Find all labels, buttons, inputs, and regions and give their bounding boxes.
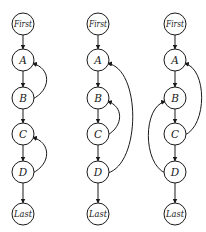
node-d: D xyxy=(164,161,186,183)
node-last: Last xyxy=(164,203,186,225)
node-label: A xyxy=(18,54,27,66)
node-first: First xyxy=(164,13,186,35)
node-label: D xyxy=(18,166,28,178)
node-label: B xyxy=(170,92,179,104)
flow-graph-3: FirstABCDLast xyxy=(148,13,201,225)
node-label: First xyxy=(88,19,107,29)
node-first: First xyxy=(12,13,34,35)
node-d: D xyxy=(87,161,109,183)
node-c: C xyxy=(164,123,186,145)
node-a: A xyxy=(164,49,186,71)
diagram-canvas: FirstABCDLastFirstABCDLastFirstABCDLast xyxy=(0,0,206,232)
node-label: D xyxy=(93,166,103,178)
node-a: A xyxy=(12,49,34,71)
node-label: C xyxy=(94,128,102,140)
back-edge-d-to-b xyxy=(148,101,165,173)
node-last: Last xyxy=(87,203,109,225)
node-label: A xyxy=(170,54,179,66)
node-label: B xyxy=(93,92,102,104)
node-a: A xyxy=(87,49,109,71)
node-label: C xyxy=(19,128,27,140)
node-c: C xyxy=(12,123,34,145)
node-label: First xyxy=(13,19,32,29)
node-label: C xyxy=(171,128,179,140)
node-label: Last xyxy=(13,209,33,219)
flow-graph-1: FirstABCDLast xyxy=(12,13,47,225)
node-label: D xyxy=(170,166,180,178)
back-edge-d-to-c xyxy=(32,137,46,173)
node-label: Last xyxy=(88,209,108,219)
node-c: C xyxy=(87,123,109,145)
node-b: B xyxy=(164,87,186,109)
flow-graph-2: FirstABCDLast xyxy=(87,13,133,225)
node-last: Last xyxy=(12,203,34,225)
node-first: First xyxy=(87,13,109,35)
back-edge-d-to-a xyxy=(107,63,132,173)
node-label: Last xyxy=(165,209,185,219)
node-d: D xyxy=(12,161,34,183)
graphs-layer: FirstABCDLastFirstABCDLastFirstABCDLast xyxy=(12,13,202,225)
node-label: A xyxy=(93,54,102,66)
back-edge-c-to-a xyxy=(184,63,201,135)
node-b: B xyxy=(12,87,34,109)
back-edge-b-to-a xyxy=(32,63,46,99)
node-b: B xyxy=(87,87,109,109)
back-edge-c-to-b xyxy=(107,101,119,135)
node-label: B xyxy=(18,92,27,104)
node-label: First xyxy=(165,19,184,29)
